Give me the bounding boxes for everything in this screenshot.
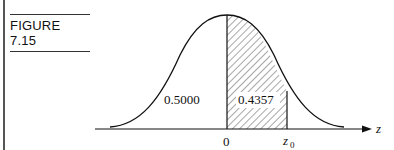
axis-label: z [375, 121, 381, 136]
shaded-area [227, 15, 287, 129]
tick-z0-subscript: 0 [290, 140, 295, 150]
axis-arrow-icon [362, 126, 372, 133]
normal-distribution-diagram: z 0.5000 0.4357 0 z 0 [0, 0, 394, 150]
shaded-area-label: 0.4357 [238, 92, 274, 107]
tick-z0: z [282, 133, 288, 148]
tick-zero: 0 [223, 134, 230, 149]
left-area-label: 0.5000 [164, 92, 200, 107]
